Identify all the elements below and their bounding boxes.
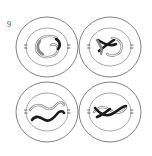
nucleus-outline: [89, 28, 131, 66]
cell-panel-bottom-left: [16, 82, 78, 142]
cell-division-illustration: [0, 0, 152, 156]
nucleus-outline: [26, 28, 68, 66]
figure-root: 9: [0, 0, 152, 156]
cell-panel-bottom-right: [79, 82, 141, 142]
cell-panel-top-left: [16, 17, 78, 77]
cell-panel-top-right: [79, 17, 141, 77]
